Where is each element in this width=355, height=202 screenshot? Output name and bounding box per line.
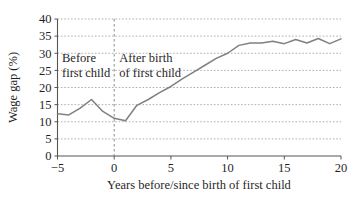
x-tick-label--5: −5 bbox=[51, 161, 64, 175]
y-tick-label-20: 20 bbox=[39, 81, 52, 95]
y-tick-label-35: 35 bbox=[39, 29, 52, 43]
y-tick-label-40: 40 bbox=[39, 12, 52, 26]
y-tick-label-30: 30 bbox=[39, 47, 52, 61]
chart-annotations: Beforefirst childAfter birthof first chi… bbox=[62, 51, 182, 80]
x-tick-label-5: 5 bbox=[168, 161, 174, 175]
chart-figure: 0510152025303540 −505101520 Years before… bbox=[0, 0, 355, 202]
y-tick-label-10: 10 bbox=[39, 115, 52, 129]
y-axis-title: Wage gap (%) bbox=[6, 52, 20, 123]
wage-gap-line-chart: 0510152025303540 −505101520 Years before… bbox=[0, 0, 355, 202]
annotation-line: After birth bbox=[119, 51, 173, 65]
y-tick-label-25: 25 bbox=[39, 64, 52, 78]
x-tick-label-0: 0 bbox=[111, 161, 117, 175]
x-axis-title: Years before/since birth of first child bbox=[107, 178, 292, 192]
y-tick-label-5: 5 bbox=[45, 132, 51, 146]
annotation-line: first child bbox=[62, 66, 111, 80]
annotation-line: Before bbox=[62, 51, 96, 65]
annotation-line: of first child bbox=[119, 66, 182, 80]
x-tick-label-10: 10 bbox=[221, 161, 234, 175]
x-tick-label-15: 15 bbox=[278, 161, 291, 175]
y-tick-label-15: 15 bbox=[39, 98, 52, 112]
x-tick-label-20: 20 bbox=[335, 161, 348, 175]
